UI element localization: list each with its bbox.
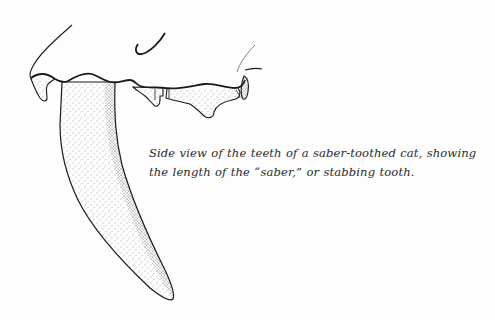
premolar-small [133,87,163,106]
caption-line-2: the length of the “saber,” or stabbing t… [149,163,489,182]
snout-outline [30,25,72,80]
figure-page: Side view of the teeth of a saber-toothe… [0,0,495,320]
rear-molar [241,76,248,99]
orbit-outline [136,33,165,54]
carnassial-tooth [166,88,240,118]
caption-line-1: Side view of the teeth of a saber-toothe… [149,144,489,163]
incisor [31,79,54,101]
figure-caption: Side view of the teeth of a saber-toothe… [149,144,489,182]
